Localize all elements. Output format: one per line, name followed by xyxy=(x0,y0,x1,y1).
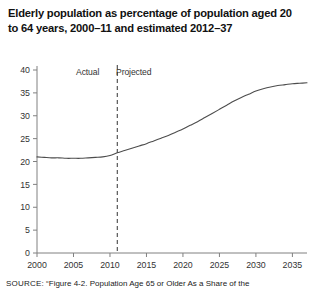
y-tick-label: 20 xyxy=(20,157,30,167)
y-tick-label: 25 xyxy=(20,134,30,144)
annotation-actual: Actual xyxy=(76,67,99,77)
annotation-projected: Projected xyxy=(116,67,151,77)
chart-plot-area: 0510152025303540200020052010201520202025… xyxy=(0,58,312,270)
y-tick-label: 5 xyxy=(25,225,30,235)
y-tick-label: 35 xyxy=(20,88,30,98)
figure-title: Elderly population as percentage of popu… xyxy=(8,6,304,36)
x-tick-label: 2000 xyxy=(27,260,47,270)
line-chart: 0510152025303540200020052010201520202025… xyxy=(0,58,312,270)
y-tick-label: 40 xyxy=(20,65,30,75)
source-label: SOURCE: xyxy=(6,279,44,288)
y-tick-label: 10 xyxy=(20,202,30,212)
source-text: “Figure 4-2. Population Age 65 or Older … xyxy=(46,279,249,288)
figure-container: Elderly population as percentage of popu… xyxy=(0,0,312,288)
x-tick-label: 2010 xyxy=(100,260,120,270)
x-tick-label: 2030 xyxy=(246,260,266,270)
x-tick-label: 2005 xyxy=(64,260,84,270)
source-note: SOURCE: “Figure 4-2. Population Age 65 o… xyxy=(6,279,312,288)
y-tick-label: 30 xyxy=(20,111,30,121)
x-tick-label: 2015 xyxy=(137,260,157,270)
data-line xyxy=(37,83,307,159)
y-tick-label: 0 xyxy=(25,248,30,258)
y-tick-label: 15 xyxy=(20,180,30,190)
x-tick-label: 2035 xyxy=(283,260,303,270)
x-tick-label: 2020 xyxy=(173,260,193,270)
x-tick-label: 2025 xyxy=(210,260,230,270)
